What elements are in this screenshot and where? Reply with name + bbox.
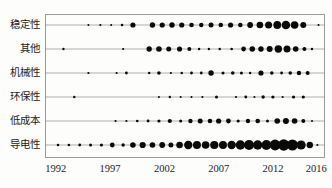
x-axis-tick-label: 1992 bbox=[45, 164, 66, 175]
x-axis-labels: 199219972002200720122016 bbox=[0, 0, 332, 188]
x-axis-tick-label: 2002 bbox=[154, 164, 175, 175]
x-axis-tick-label: 2016 bbox=[306, 164, 327, 175]
bubble-chart: 稳定性其他机械性环保性低成本导电性 1992199720022007201220… bbox=[0, 0, 332, 188]
x-axis-tick-label: 2012 bbox=[262, 164, 283, 175]
x-axis-tick-label: 1997 bbox=[100, 164, 121, 175]
x-axis-tick-label: 2007 bbox=[208, 164, 229, 175]
